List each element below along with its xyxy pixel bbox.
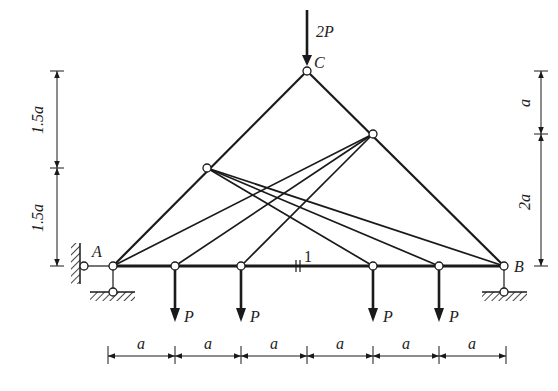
node-label-A: A [91, 243, 102, 260]
support-A-ground [90, 266, 135, 301]
dim-bottom-2: a [204, 335, 212, 352]
bottom-dimension [108, 346, 506, 364]
load-label-P-4: P [448, 308, 459, 325]
node-label-B: B [514, 258, 524, 275]
load-arrow-2P [302, 10, 312, 66]
node-label-C: C [314, 54, 325, 71]
dim-bottom-3: a [270, 335, 278, 352]
dim-bottom-1: a [137, 335, 145, 352]
right-dimension [534, 71, 548, 266]
load-label-2P: 2P [316, 23, 334, 40]
truss-members [113, 71, 504, 266]
dim-bottom-5: a [402, 335, 410, 352]
load-label-P-1: P [183, 308, 194, 325]
dim-right-upper: a [516, 99, 533, 107]
load-label-P-3: P [382, 308, 393, 325]
nodes [109, 67, 508, 270]
load-arrowheads [170, 308, 444, 322]
dim-bottom-6: a [468, 335, 476, 352]
load-label-P-2: P [249, 308, 260, 325]
left-dimension [50, 71, 64, 266]
member-1-label: 1 [304, 248, 312, 265]
dim-left-lower: 1.5a [29, 204, 46, 232]
load-arrows-P [175, 270, 439, 310]
dim-bottom-4: a [336, 335, 344, 352]
dim-left-upper: 1.5a [29, 106, 46, 134]
truss-diagram: 1 C A B 2P [0, 0, 558, 391]
dim-right-lower: 2a [516, 194, 533, 210]
